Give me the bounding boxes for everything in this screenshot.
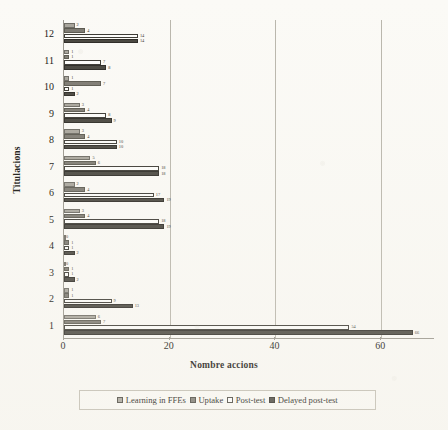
legend-swatch-icon <box>227 397 233 403</box>
legend-item-learning-in-ffes: Learning in FFEs <box>117 395 186 405</box>
legend-swatch-icon <box>117 397 123 403</box>
bar-post-test <box>64 325 349 330</box>
bar-value-label: 2 <box>77 251 79 255</box>
bar-row: 2 <box>64 23 434 28</box>
bar-group: 3489 <box>64 103 434 124</box>
bar-learning-in-ffes <box>64 129 80 134</box>
bar-delayed-post-test <box>64 145 117 150</box>
bar-row: 2 <box>64 182 434 187</box>
bar-post-test <box>64 272 69 277</box>
bar-row: 18 <box>64 171 434 176</box>
bar-value-label: 10 <box>119 145 123 149</box>
bar-value-label: 1 <box>71 87 73 91</box>
bar-row: 5 <box>64 156 434 161</box>
bar-value-label: 2 <box>77 23 79 27</box>
bar-group: 241719 <box>64 182 434 203</box>
bar-value-label: 13 <box>135 304 139 308</box>
plot-area: 2414141178171234893410105618182417193418… <box>63 20 434 338</box>
bar-post-test <box>64 113 106 118</box>
bar-row: 1 <box>64 87 434 92</box>
bar-value-label: 17 <box>156 193 160 197</box>
bar-post-test <box>64 87 69 92</box>
bar-delayed-post-test <box>64 65 106 70</box>
bar-value-label: 4 <box>87 134 89 138</box>
y-tick-label: 6 <box>49 187 54 198</box>
bar-learning-in-ffes <box>64 315 96 320</box>
bar-uptake <box>64 267 69 272</box>
bar-value-label: 2 <box>77 182 79 186</box>
bar-value-label: 7 <box>103 60 105 64</box>
bar-row: 1 <box>64 246 434 251</box>
bar-row: 18 <box>64 166 434 171</box>
y-axis-tick-labels: 121110987654321 <box>28 20 59 338</box>
legend-label: Delayed post-test <box>278 395 338 405</box>
bars-layer: 2414141178171234893410105618182417193418… <box>64 20 434 338</box>
legend-item-post-test: Post-test <box>227 395 265 405</box>
bar-group: 561818 <box>64 156 434 177</box>
legend-item-delayed-post-test: Delayed post-test <box>269 395 337 405</box>
bar-value-label: 4 <box>87 214 89 218</box>
bar-value-label: 1 <box>71 246 73 250</box>
bar-row: 1 <box>64 288 434 293</box>
legend-swatch-icon <box>190 397 196 403</box>
y-tick-label: 11 <box>44 54 54 65</box>
bar-learning-in-ffes <box>64 50 69 55</box>
bar-row: 66 <box>64 330 434 335</box>
bar-row: 0 <box>64 262 434 267</box>
x-axis-line <box>63 338 434 339</box>
bar-post-test <box>64 34 138 39</box>
y-tick-label: 3 <box>49 266 54 277</box>
bar-post-test <box>64 193 154 198</box>
chart-legend: Learning in FFEsUptakePost-testDelayed p… <box>79 390 376 410</box>
bar-delayed-post-test <box>64 171 159 176</box>
bar-learning-in-ffes <box>64 288 69 293</box>
bar-uptake <box>64 134 85 139</box>
bar-value-label: 1 <box>71 76 73 80</box>
bar-post-test <box>64 140 117 145</box>
bar-post-test <box>64 246 69 251</box>
bar-value-label: 2 <box>77 92 79 96</box>
y-tick-label: 9 <box>49 107 54 118</box>
bar-row: 14 <box>64 34 434 39</box>
bar-value-label: 14 <box>140 39 144 43</box>
bar-row: 9 <box>64 118 434 123</box>
bar-row: 8 <box>64 65 434 70</box>
bar-row: 1 <box>64 55 434 60</box>
bar-learning-in-ffes <box>64 209 80 214</box>
bar-row: 1 <box>64 76 434 81</box>
bar-row: 4 <box>64 214 434 219</box>
bar-row: 1 <box>64 50 434 55</box>
bar-uptake <box>64 293 69 298</box>
x-axis-tick-labels: 0204060 <box>63 340 434 356</box>
bar-learning-in-ffes <box>64 76 69 81</box>
bar-row: 2 <box>64 251 434 256</box>
bar-row: 1 <box>64 272 434 277</box>
bar-group: 341819 <box>64 209 434 230</box>
bar-value-label: 3 <box>82 129 84 133</box>
bar-row: 2 <box>64 92 434 97</box>
legend-label: Learning in FFEs <box>126 395 186 405</box>
bar-value-label: 8 <box>108 65 110 69</box>
bar-row: 8 <box>64 113 434 118</box>
bar-row: 1 <box>64 240 434 245</box>
bar-group: 675466 <box>64 315 434 336</box>
bar-row: 1 <box>64 267 434 272</box>
bar-group: 241414 <box>64 23 434 44</box>
bar-post-test <box>64 299 112 304</box>
bar-row: 6 <box>64 161 434 166</box>
bar-uptake <box>64 28 85 33</box>
y-tick-label: 2 <box>49 293 54 304</box>
bar-row: 1 <box>64 293 434 298</box>
bar-delayed-post-test <box>64 330 413 335</box>
bar-row: 0 <box>64 235 434 240</box>
bar-uptake <box>64 55 69 60</box>
y-axis-title-label: Titulacions <box>12 146 22 193</box>
y-tick-label: 10 <box>44 81 54 92</box>
bar-row: 3 <box>64 209 434 214</box>
bar-row: 4 <box>64 108 434 113</box>
x-axis-title: Nombre accions <box>0 360 448 370</box>
legend-item-uptake: Uptake <box>190 395 223 405</box>
bar-uptake <box>64 187 85 192</box>
bar-value-label: 0 <box>66 235 68 239</box>
bar-group: 1712 <box>64 76 434 97</box>
